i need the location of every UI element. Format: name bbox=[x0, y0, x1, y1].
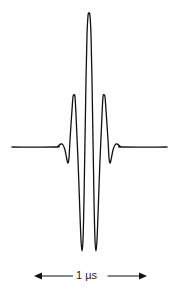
waveform-curve bbox=[12, 13, 167, 251]
wavelet-diagram bbox=[0, 0, 173, 293]
scale-bar-label-wrap: 1 µs bbox=[0, 268, 173, 282]
scale-bar-label: 1 µs bbox=[73, 269, 100, 281]
